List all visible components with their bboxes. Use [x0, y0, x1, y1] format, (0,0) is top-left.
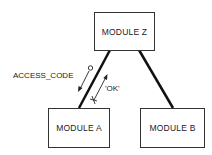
- structure-chart: MODULE Z MODULE A MODULE B ACCESS_CODE '…: [0, 0, 212, 155]
- module-b-label: MODULE B: [150, 123, 196, 133]
- connection-z-b: [139, 50, 173, 108]
- ok-label: 'OK': [105, 84, 120, 93]
- access-code-label: ACCESS_CODE: [13, 71, 73, 80]
- module-a-label: MODULE A: [56, 123, 102, 133]
- module-a-box[interactable]: MODULE A: [48, 108, 110, 148]
- module-b-box[interactable]: MODULE B: [140, 108, 205, 148]
- module-z-label: MODULE Z: [102, 27, 148, 37]
- open-circle-icon: [88, 66, 92, 70]
- module-z-box[interactable]: MODULE Z: [94, 12, 155, 51]
